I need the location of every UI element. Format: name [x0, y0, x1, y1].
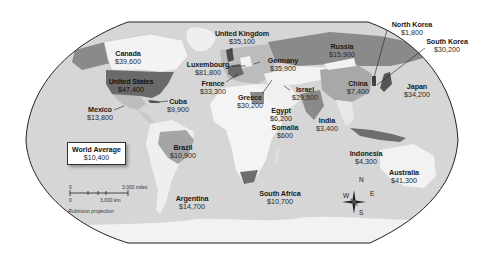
label-greece: Greece$30,200 [237, 94, 263, 109]
new-zealand [444, 182, 452, 196]
label-japan: Japan$34,200 [404, 83, 430, 98]
legend-value: $10,400 [68, 154, 125, 161]
label-russia: Russia$15,900 [329, 43, 355, 58]
projection-label: Robinson projection [68, 208, 114, 214]
label-mexico: Mexico$13,800 [87, 106, 113, 121]
label-china: China$7,400 [347, 80, 369, 95]
scale-miles-label: 3,000 miles [122, 184, 148, 190]
label-canada: Canada$39,600 [115, 50, 141, 65]
label-united-kingdom: United Kingdom$35,100 [215, 30, 269, 45]
label-somalia: Somalia$600 [272, 124, 299, 139]
label-north-korea: North Korea$1,800 [392, 21, 432, 36]
label-france: France$33,300 [200, 80, 226, 95]
compass-w: W [343, 192, 349, 199]
label-australia: Australia$41,300 [389, 169, 419, 184]
scale-km-label: 3,000 km [100, 197, 121, 203]
compass-e: E [370, 190, 374, 197]
scale-km-zero: 0 [69, 197, 72, 203]
label-united-states: United States$47,400 [109, 78, 154, 93]
label-cuba: Cuba$9,900 [167, 98, 189, 113]
label-south-africa: South Africa$10,700 [259, 190, 300, 205]
label-argentina: Argentina$14,700 [176, 195, 209, 210]
label-egypt: Egypt$6,200 [270, 107, 292, 122]
compass-n: N [359, 176, 364, 183]
label-brazil: Brazil$10,900 [170, 144, 196, 159]
label-luxembourg: Luxembourg$81,800 [187, 61, 230, 76]
legend-title: World Average [68, 146, 125, 153]
label-germany: Germany$35,900 [268, 57, 298, 72]
label-india: India$3,400 [316, 117, 338, 132]
scale-miles-zero: 0 [69, 184, 72, 190]
compass-s: S [359, 209, 363, 216]
label-israel: Israel$29,500 [292, 86, 318, 101]
world-average-legend: World Average $10,400 [67, 142, 126, 165]
label-indonesia: Indonesia$4,300 [350, 150, 383, 165]
label-south-korea: South Korea$30,200 [426, 38, 468, 53]
